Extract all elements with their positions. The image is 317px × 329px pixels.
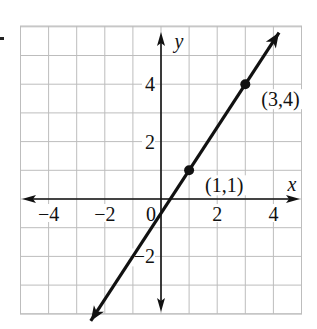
x-tick-label: 2: [212, 203, 222, 225]
data-point: [240, 79, 250, 89]
x-tick-label: −4: [38, 203, 59, 225]
data-point: [184, 165, 194, 175]
y-tick-label: 2: [145, 131, 155, 153]
line-arrow-down-icon: [91, 305, 104, 321]
x-axis-label: x: [287, 173, 297, 195]
line-series: [91, 33, 279, 321]
y-tick-label: 4: [145, 73, 155, 95]
point-label: (1,1): [205, 174, 243, 197]
y-axis-label: y: [173, 30, 184, 53]
x-tick-label: 4: [268, 203, 278, 225]
line-arrow-up-icon: [266, 33, 279, 49]
point-label: (3,4): [261, 88, 299, 111]
chart: −4−202442−2xy(1,1)(3,4): [0, 0, 317, 329]
x-tick-label: −2: [94, 203, 115, 225]
